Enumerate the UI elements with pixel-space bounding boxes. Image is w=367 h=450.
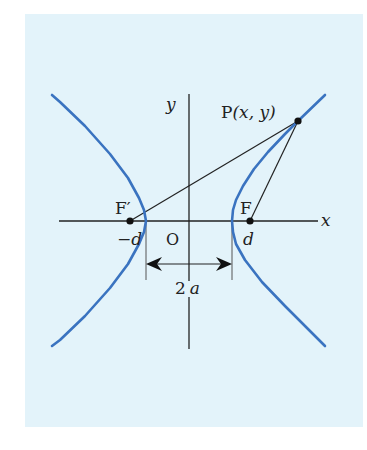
y-axis-label: y [165,94,176,114]
line-fprime-to-p [130,121,298,221]
dimension-variable: a [190,278,200,298]
point-p-label: P(x, y) [221,102,276,122]
line-f-to-p [250,121,298,221]
origin-label: O [166,230,179,249]
dimension-number: 2 [175,278,186,298]
focus-f-prime-label: F′ [115,198,131,218]
focus-f-point [246,217,253,224]
dimension-label: 2a [175,278,200,298]
focus-f-coord: d [243,229,254,249]
p-letter: P [221,102,232,122]
hyperbola-diagram: y x O P(x, y) F′ −d F d 2a [0,0,367,450]
p-coords: (x, y) [232,102,275,122]
point-p [294,117,301,124]
focus-f-prime-point [126,217,133,224]
focus-f-label: F [240,198,252,218]
focus-f-prime-coord: −d [117,229,142,249]
x-axis-label: x [321,210,331,230]
